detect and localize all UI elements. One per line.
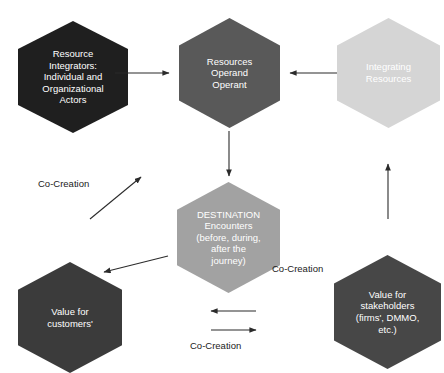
arrow-cocreation-upright	[90, 177, 141, 219]
co-creation-bottom: Co-Creation	[190, 340, 241, 351]
hexagon-destination-encounters[interactable]: DESTINATION Encounters (before, during, …	[177, 182, 280, 293]
hexagon-label-integrating-resources: Integrating Resources	[357, 61, 420, 84]
arrow-destination-to-customers	[104, 256, 168, 272]
hexagon-value-for-customers[interactable]: Value for customers'	[18, 262, 122, 373]
hexagon-integrating-resources[interactable]: Integrating Resources	[337, 18, 440, 128]
hexagon-label-value-for-customers: Value for customers'	[38, 306, 102, 329]
co-creation-right: Co-Creation	[272, 263, 323, 274]
hexagon-label-destination-encounters: DESTINATION Encounters (before, during, …	[187, 209, 269, 267]
diagram-canvas: Resource Integrators: Individual and Org…	[0, 0, 444, 373]
hexagon-label-resource-integrators: Resource Integrators: Individual and Org…	[33, 48, 112, 106]
hexagon-value-for-stakeholders[interactable]: Value for stakeholders (firms', DMMO, et…	[334, 255, 441, 369]
hexagon-label-value-for-stakeholders: Value for stakeholders (firms', DMMO, et…	[347, 289, 429, 335]
hexagon-label-resources-operand-operant: Resources Operand Operant	[198, 56, 261, 91]
hexagon-resource-integrators[interactable]: Resource Integrators: Individual and Org…	[18, 21, 128, 133]
co-creation-left: Co-Creation	[38, 178, 89, 189]
hexagon-resources-operand-operant[interactable]: Resources Operand Operant	[179, 18, 280, 128]
